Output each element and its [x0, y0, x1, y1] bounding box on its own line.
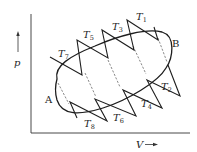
- y-axis-label-group: p: [14, 31, 21, 68]
- x-axis-label: V: [136, 139, 145, 150]
- x-axis-label-group: V: [136, 139, 158, 150]
- pv-diagram: p V T1 T3 T5 T7 T2 T4 T6 T8 A B: [0, 0, 197, 152]
- label-t2: T2: [161, 81, 172, 94]
- point-b-label: B: [172, 38, 179, 49]
- upper-zigzag-chain: [50, 20, 158, 75]
- label-t6: T6: [113, 112, 124, 125]
- label-t4: T4: [141, 98, 152, 111]
- label-t8: T8: [84, 118, 95, 131]
- label-t5: T5: [83, 29, 94, 42]
- point-a-label: A: [44, 94, 53, 105]
- up-arrowhead-icon: [16, 31, 19, 36]
- cycle-ellipse: [56, 31, 172, 113]
- y-axis-label: p: [14, 57, 21, 68]
- axes: [31, 14, 190, 133]
- label-t1: T1: [136, 11, 147, 24]
- label-t7: T7: [58, 48, 69, 61]
- label-t3: T3: [112, 21, 123, 34]
- right-arrowhead-icon: [153, 143, 158, 146]
